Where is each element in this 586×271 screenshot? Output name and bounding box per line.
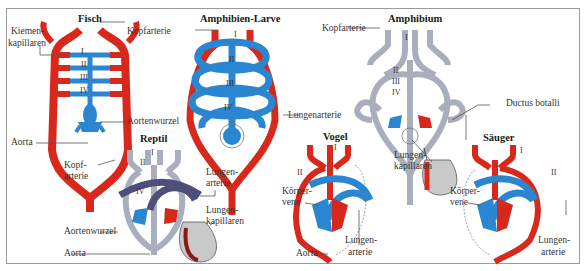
arch-label: II (81, 60, 86, 69)
mammal-circulation (464, 145, 538, 262)
label-ductus-botalli: Ductus botalli (506, 98, 560, 109)
title-saeuger: Säuger (483, 132, 515, 143)
arch-label: II (393, 66, 398, 75)
label-vogel-lungen: Lungen- (345, 235, 377, 246)
arch-label: IV (224, 103, 232, 112)
label-vogel-aorta: Aorta (296, 248, 318, 259)
reptile-circulation (120, 150, 216, 262)
label-fisch-kopfarterie: Kopfarterie (127, 26, 171, 37)
label-saeuger-vene: vene (450, 197, 468, 208)
label-reptil-lungenarterie: arterie (206, 178, 230, 189)
arch-label: II (551, 168, 556, 177)
label-vogel-koerper: Körper- (282, 186, 312, 197)
label-reptil-aortenwurzel: Aortenwurzel (64, 226, 116, 237)
label-reptil-kopf: Kopf- (64, 160, 87, 171)
title-amphibien-larve: Amphibien-Larve (200, 13, 281, 24)
label-reptil-lungen-k: Lungen- (206, 205, 238, 216)
arch-label: III (392, 77, 400, 86)
arch-label: II (140, 158, 145, 167)
label-amphibium-lungenkapillaren: kapillaren (394, 161, 432, 172)
label-reptil-lungen-a: Lungen- (206, 167, 238, 178)
amphibian-circulation (357, 30, 462, 205)
arch-label: II (229, 55, 234, 64)
reptile-lung-capillaries (179, 222, 216, 262)
arch-label: I (234, 30, 237, 39)
arch-label: III (226, 79, 234, 88)
arch-label: I (405, 33, 408, 42)
arch-label: I (334, 143, 337, 152)
label-saeuger-koerper: Körper- (450, 186, 480, 197)
label-amphibium-kopfarterie: Kopfarterie (322, 23, 366, 34)
label-vogel-lungenarterie: arterie (348, 247, 372, 258)
title-vogel: Vogel (323, 131, 348, 142)
arch-label: I (151, 148, 154, 157)
label-vogel-vene: vene (282, 197, 300, 208)
label-saeuger-lungenarterie: arterie (541, 247, 565, 258)
label-amphibium-lungen: Lungen- (394, 150, 426, 161)
fish-circulation (43, 22, 136, 212)
arch-label: III (80, 73, 88, 82)
arch-label: IV (392, 88, 400, 97)
arch-label: II (297, 168, 302, 177)
label-fisch-aortenwurzel: Aortenwurzel (127, 116, 179, 127)
label-lungenarterie: Lungenarterie (288, 110, 341, 121)
title-amphibium: Amphibium (388, 13, 442, 24)
arch-label: I (81, 47, 84, 56)
arch-label: IV (136, 187, 144, 196)
label-kiemen: Kiemen- (11, 26, 44, 37)
label-reptil-aorta: Aorta (64, 248, 86, 259)
arch-label: IV (80, 86, 88, 95)
title-reptil: Reptil (140, 133, 167, 144)
label-reptil-kopfarterie: arterie (64, 171, 88, 182)
label-saeuger-lungen: Lungen- (538, 235, 570, 246)
title-fisch: Fisch (78, 13, 102, 24)
label-reptil-lungenkapillaren: kapillaren (206, 216, 244, 227)
label-kiemenkapillaren: kapillaren (8, 38, 46, 49)
label-fisch-aorta: Aorta (11, 137, 33, 148)
arch-label: I (520, 146, 523, 155)
